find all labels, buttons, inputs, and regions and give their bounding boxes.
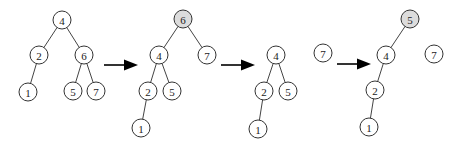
nodes-layer: 4261576472514251754721 bbox=[19, 10, 443, 138]
tree-node: 4 bbox=[267, 46, 285, 64]
tree-edge bbox=[67, 28, 79, 48]
tree-node: 1 bbox=[249, 120, 267, 138]
tree-node: 2 bbox=[30, 46, 48, 64]
tree-node: 4 bbox=[150, 46, 168, 64]
tree-node: 7 bbox=[314, 44, 332, 62]
right-arrow-icon bbox=[337, 59, 371, 70]
tree-node: 5 bbox=[163, 82, 181, 100]
tree-edge bbox=[31, 64, 37, 84]
node-label: 5 bbox=[169, 86, 175, 98]
node-label: 4 bbox=[383, 50, 389, 62]
node-label: 2 bbox=[372, 85, 378, 97]
node-label: 1 bbox=[25, 87, 31, 99]
tree-edge bbox=[259, 100, 262, 120]
tree-node: 1 bbox=[19, 83, 37, 101]
node-label: 4 bbox=[59, 15, 65, 27]
tree-edge bbox=[188, 26, 202, 47]
arrows-layer bbox=[104, 59, 371, 71]
node-label: 2 bbox=[36, 50, 42, 62]
node-label: 5 bbox=[407, 14, 413, 26]
tree-edge bbox=[267, 64, 273, 83]
tree-node: 2 bbox=[366, 81, 384, 99]
tree-node: 6 bbox=[75, 46, 93, 64]
right-arrow-icon bbox=[104, 60, 138, 71]
node-label: 4 bbox=[273, 50, 279, 62]
tree-edge bbox=[391, 26, 405, 47]
node-label: 7 bbox=[431, 49, 437, 61]
node-label: 7 bbox=[320, 48, 326, 60]
tree-stage-2 bbox=[143, 26, 202, 119]
tree-node: 2 bbox=[255, 82, 273, 100]
node-label: 6 bbox=[180, 14, 186, 26]
tree-edge bbox=[370, 99, 373, 118]
tree-edge bbox=[378, 64, 384, 82]
tree-node-highlighted: 6 bbox=[174, 10, 192, 28]
tree-node: 5 bbox=[279, 82, 297, 100]
tree-node: 4 bbox=[53, 11, 71, 29]
node-label: 4 bbox=[156, 50, 162, 62]
tree-node: 2 bbox=[139, 82, 157, 100]
tree-node: 5 bbox=[64, 82, 82, 100]
tree-edge bbox=[44, 28, 57, 48]
tree-node: 4 bbox=[377, 46, 395, 64]
node-label: 7 bbox=[93, 86, 99, 98]
node-label: 1 bbox=[138, 123, 144, 135]
tree-edge bbox=[87, 64, 93, 83]
tree-node: 7 bbox=[87, 82, 105, 100]
node-label: 2 bbox=[261, 86, 267, 98]
node-label: 5 bbox=[70, 86, 76, 98]
tree-edge bbox=[151, 64, 157, 83]
tree-stage-4 bbox=[370, 26, 405, 118]
tree-node: 1 bbox=[360, 118, 378, 136]
edges-layer bbox=[31, 26, 405, 120]
tree-rotation-diagram: 4261576472514251754721 bbox=[0, 0, 459, 146]
tree-edge bbox=[143, 100, 147, 119]
tree-node: 1 bbox=[132, 119, 150, 137]
tree-edge bbox=[279, 64, 285, 83]
tree-edge bbox=[162, 63, 169, 82]
right-arrow-icon bbox=[221, 60, 255, 71]
tree-node: 7 bbox=[425, 45, 443, 63]
node-label: 6 bbox=[81, 50, 87, 62]
node-label: 2 bbox=[145, 86, 151, 98]
node-label: 7 bbox=[204, 50, 210, 62]
node-label: 5 bbox=[285, 86, 291, 98]
node-label: 1 bbox=[255, 124, 261, 136]
tree-node: 7 bbox=[198, 46, 216, 64]
tree-node-highlighted: 5 bbox=[401, 10, 419, 28]
tree-edge bbox=[76, 64, 82, 83]
node-label: 1 bbox=[366, 122, 372, 134]
tree-edge bbox=[164, 26, 178, 47]
